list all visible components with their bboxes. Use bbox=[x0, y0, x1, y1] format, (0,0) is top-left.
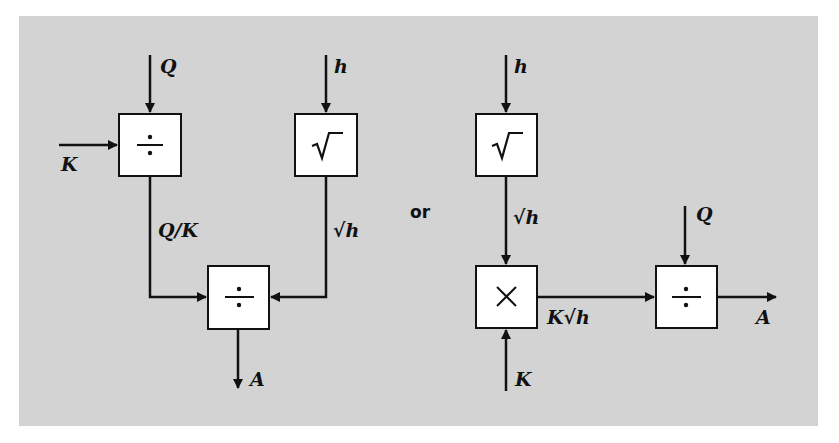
label-input-q: Q bbox=[160, 57, 177, 76]
separator-or: or bbox=[410, 204, 430, 221]
label-input-h: h bbox=[334, 57, 348, 76]
label-k-sqrt-h: K√h bbox=[547, 308, 590, 327]
label-q-over-k: Q/K bbox=[158, 221, 198, 240]
label-input-k: K bbox=[61, 155, 78, 174]
label-output-a-right: A bbox=[756, 308, 771, 327]
label-input-h-right: h bbox=[514, 57, 528, 76]
label-output-a: A bbox=[250, 370, 265, 389]
label-input-k-right: K bbox=[515, 370, 532, 389]
label-input-q-right: Q bbox=[696, 205, 713, 224]
label-sqrt-h-right: √h bbox=[513, 208, 539, 227]
label-sqrt-h: √h bbox=[333, 221, 359, 240]
sqrt-h-connector bbox=[271, 176, 326, 297]
